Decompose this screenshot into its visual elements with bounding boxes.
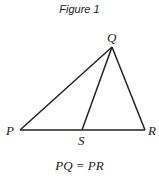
- figure-caption: PQ = PR: [0, 158, 159, 174]
- triangle-diagram: Q P S R: [0, 0, 159, 183]
- label-r: R: [147, 123, 156, 138]
- label-q: Q: [107, 30, 117, 45]
- label-p: P: [5, 123, 14, 138]
- segment-qs: [82, 47, 112, 130]
- label-s: S: [78, 133, 85, 148]
- segment-pq: [20, 47, 112, 130]
- segment-qr: [112, 47, 145, 130]
